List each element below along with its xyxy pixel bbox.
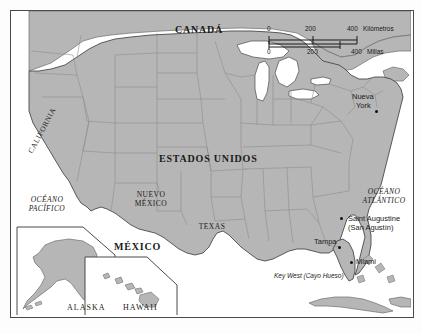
hispaniola-landmass <box>389 297 411 307</box>
scale-tick-mi-400: 400 <box>351 49 362 56</box>
map-frame: CANADÁ ESTADOS UNIDOS MÉXICO CALIFORNIA … <box>10 10 414 318</box>
city-dot-nueva-york <box>375 110 378 113</box>
scale-tick-mi-0: 0 <box>267 49 271 56</box>
scale-tick-mi-200: 200 <box>307 49 318 56</box>
label-estados-unidos: ESTADOS UNIDOS <box>159 154 258 165</box>
label-key-west: Key West (Cayo Hueso) <box>274 273 344 280</box>
city-dot-tampa <box>338 246 341 249</box>
label-nueva-york-line2: York <box>356 102 371 110</box>
label-oceano-atlantico-line1: OCÉANO <box>357 188 411 196</box>
label-canada: CANADÁ <box>175 25 223 36</box>
label-miami: Miami <box>356 258 376 266</box>
lake-ontario <box>311 77 331 85</box>
cuba-landmass <box>309 297 393 313</box>
label-tampa: Tampa <box>314 238 337 246</box>
label-saint-augustine-line2: (San Agustín) <box>348 224 393 232</box>
label-mexico: MÉXICO <box>114 242 161 253</box>
city-dot-saint-augustine <box>340 217 343 220</box>
label-oceano-pacifico-line2: PACÍFICO <box>19 205 75 213</box>
scale-tick-km-400: 400 <box>347 26 358 33</box>
scale-unit-kilometros: Kilómetros <box>363 26 394 33</box>
city-dot-miami <box>350 261 353 264</box>
map-figure: CANADÁ ESTADOS UNIDOS MÉXICO CALIFORNIA … <box>0 0 422 334</box>
scale-unit-millas: Millas <box>367 49 384 56</box>
label-nuevo-mexico-line1: NUEVO <box>129 191 173 199</box>
scale-tick-km-200: 200 <box>305 26 316 33</box>
label-saint-augustine-line1: Saint Augustine <box>348 215 400 223</box>
label-hawaii: HAWAII <box>123 304 158 312</box>
label-texas: TEXAS <box>194 223 230 231</box>
label-alaska: ALASKA <box>67 304 105 312</box>
label-nuevo-mexico-line2: MÉXICO <box>129 200 173 208</box>
scale-tick-km-0: 0 <box>267 26 271 33</box>
label-oceano-pacifico-line1: OCÉANO <box>19 196 75 204</box>
label-oceano-atlantico-line2: ATLÁNTICO <box>355 197 413 205</box>
label-nueva-york-line1: Nueva <box>352 93 374 101</box>
